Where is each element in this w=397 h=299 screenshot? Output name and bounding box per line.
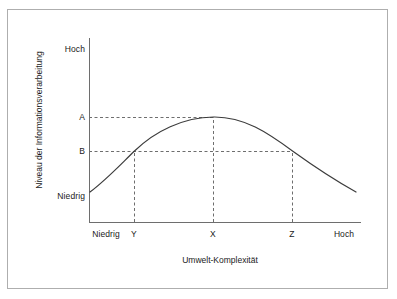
data-curve-inverted-u <box>90 117 356 192</box>
y-tick-label-b: B <box>41 146 85 156</box>
x-tick-label-hoch: Hoch <box>322 229 366 239</box>
x-axis-title: Umwelt-Komplexität <box>140 255 300 265</box>
y-tick-label-a: A <box>41 112 85 122</box>
figure-container: Hoch A B Niedrig Niedrig Y X Z Hoch Umwe… <box>0 0 397 299</box>
x-tick-label-y: Y <box>114 229 154 239</box>
y-tick-label-hoch: Hoch <box>41 44 85 54</box>
y-tick-label-niedrig: Niedrig <box>41 191 85 201</box>
x-tick-label-x: X <box>193 229 233 239</box>
x-tick-label-z: Z <box>272 229 312 239</box>
y-axis-title: Niveau der Informationsverarbeitung <box>34 35 44 205</box>
